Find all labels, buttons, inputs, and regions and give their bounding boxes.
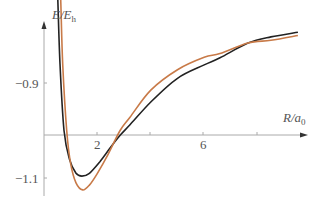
y-axis-label: E/Eh bbox=[52, 8, 76, 24]
x-axis-label: R/a0 bbox=[283, 111, 306, 127]
y-axis-arrow-icon bbox=[42, 21, 47, 29]
chart-canvas bbox=[0, 0, 326, 205]
series-orange-line bbox=[60, 0, 298, 190]
ytick-label-top: −0.9 bbox=[15, 77, 39, 90]
xtick-label-6: 6 bbox=[200, 138, 207, 151]
xtick-label-2: 2 bbox=[94, 138, 101, 151]
ytick-label-bottom: −1.1 bbox=[15, 172, 39, 185]
x-axis-arrow-icon bbox=[300, 133, 308, 138]
